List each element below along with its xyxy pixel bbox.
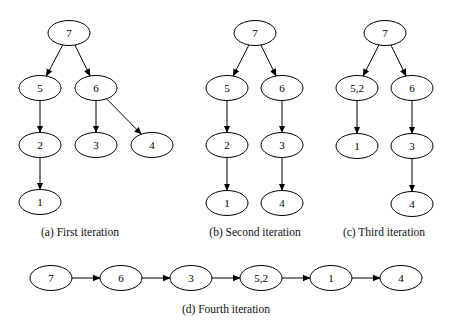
node-label: 6 xyxy=(118,272,124,284)
graph-node: 6 xyxy=(261,76,303,101)
node-label: 1 xyxy=(328,272,334,284)
node-label: 1 xyxy=(354,140,360,152)
graph-node: 5,2 xyxy=(336,76,378,101)
graph-node: 7 xyxy=(364,21,406,46)
node-label: 1 xyxy=(37,196,43,208)
node-label: 4 xyxy=(398,272,404,284)
graph-node: 3 xyxy=(391,134,433,159)
graph-node: 1 xyxy=(19,190,61,215)
node-label: 3 xyxy=(188,272,194,284)
graph-node: 7 xyxy=(48,21,90,46)
graph-node: 6 xyxy=(391,76,433,101)
node-label: 6 xyxy=(409,82,415,94)
node-label: 2 xyxy=(224,139,230,151)
node-label: 5 xyxy=(37,82,43,94)
edge-arrow xyxy=(75,45,90,76)
node-label: 3 xyxy=(93,139,99,151)
graph-node: 4 xyxy=(261,191,303,216)
node-label: 5,2 xyxy=(350,82,364,94)
graph-node: 2 xyxy=(206,133,248,158)
edge-arrow xyxy=(363,45,379,76)
node-label: 4 xyxy=(409,198,415,210)
edge-arrow xyxy=(46,45,62,76)
node-label: 7 xyxy=(382,27,388,39)
node-label: 5,2 xyxy=(254,272,268,284)
node-label: 3 xyxy=(409,140,415,152)
graph-node: 4 xyxy=(380,266,422,291)
graph-node: 3 xyxy=(170,266,212,291)
node-label: 1 xyxy=(224,197,230,209)
node-label: 3 xyxy=(279,139,285,151)
graph-node: 3 xyxy=(75,133,117,158)
edge-arrow xyxy=(391,45,406,76)
node-label: 6 xyxy=(279,82,285,94)
graph-node: 5 xyxy=(19,76,61,101)
graph-node: 1 xyxy=(336,134,378,159)
edge-arrow xyxy=(261,45,276,76)
node-label: 7 xyxy=(252,27,258,39)
graph-node: 6 xyxy=(75,76,117,101)
panel-caption-a: (a) First iteration xyxy=(41,226,119,239)
panel-caption-d: (d) Fourth iteration xyxy=(182,303,270,316)
node-label: 6 xyxy=(93,82,99,94)
graph-node: 3 xyxy=(261,133,303,158)
graph-node: 4 xyxy=(391,192,433,217)
node-label: 7 xyxy=(66,27,72,39)
node-label: 7 xyxy=(48,272,54,284)
graph-node: 6 xyxy=(100,266,142,291)
panel-caption-c: (c) Third iteration xyxy=(343,226,425,239)
edge-arrow xyxy=(107,99,142,134)
node-label: 4 xyxy=(149,139,155,151)
graph-node: 4 xyxy=(131,133,173,158)
edge-arrow xyxy=(233,45,249,76)
tree-iterations-diagram: 7562341756231475,261347635,214 (a) First… xyxy=(0,0,452,329)
panel-caption-b: (b) Second iteration xyxy=(209,226,301,239)
graph-node: 2 xyxy=(19,133,61,158)
graph-node: 1 xyxy=(206,191,248,216)
captions-layer: (a) First iteration(b) Second iteration(… xyxy=(41,226,425,316)
node-label: 2 xyxy=(37,139,43,151)
graph-node: 7 xyxy=(234,21,276,46)
node-label: 5 xyxy=(224,82,230,94)
graph-node: 7 xyxy=(30,266,72,291)
graph-node: 5,2 xyxy=(240,266,282,291)
graph-node: 1 xyxy=(310,266,352,291)
graph-node: 5 xyxy=(206,76,248,101)
node-label: 4 xyxy=(279,197,285,209)
